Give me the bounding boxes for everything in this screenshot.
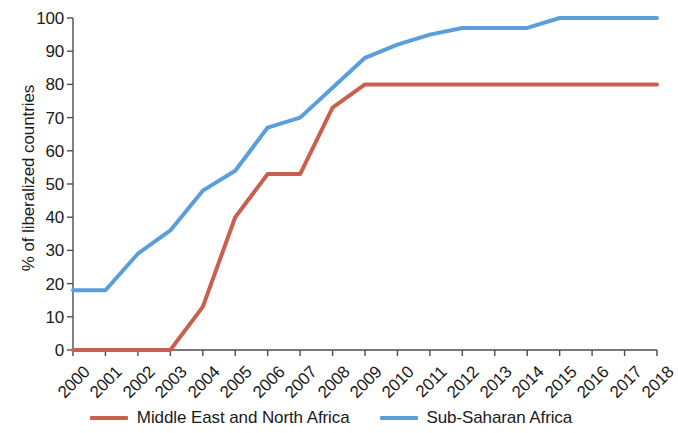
chart-legend: Middle East and North AfricaSub-Saharan … (0, 408, 662, 428)
legend-swatch-icon (380, 416, 418, 420)
legend-swatch-icon (90, 416, 128, 420)
legend-item-1[interactable]: Middle East and North Africa (90, 408, 350, 428)
legend-label: Sub-Saharan Africa (427, 408, 573, 428)
legend-item-2[interactable]: Sub-Saharan Africa (380, 408, 573, 428)
legend-label: Middle East and North Africa (137, 408, 350, 428)
